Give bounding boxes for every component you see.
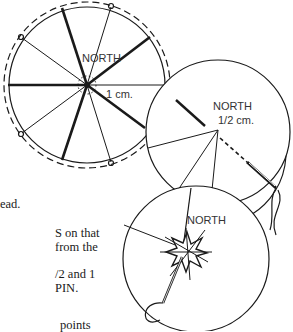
figure-1-circle-spokes [4, 2, 170, 168]
figure-1-measure-label: 1 cm. [106, 88, 133, 100]
figure-2-measure-label: 1/2 cm. [218, 114, 254, 126]
figure-3-circle-star [123, 186, 269, 331]
body-text-line: S on that [55, 226, 99, 240]
figure-2-north-label: NORTH [213, 100, 252, 112]
figure-1-north-label: NORTH [82, 52, 121, 64]
body-text-line: /2 and 1 [55, 267, 95, 281]
body-text-line: from the [55, 240, 98, 254]
body-text-line: points [60, 318, 91, 332]
body-text-line: PIN. [55, 281, 78, 295]
body-text-line: ead. [0, 197, 20, 211]
figure-3-north-label: NORTH [187, 214, 226, 226]
